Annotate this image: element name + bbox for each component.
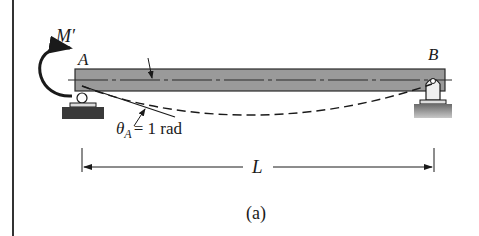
applied-moment-arrow — [40, 47, 72, 96]
support-b-label: B — [428, 45, 439, 64]
beam-diagram: M′ A B θA= 1 rad L (a) — [0, 0, 479, 236]
moment-label: M′ — [55, 26, 76, 46]
support-a-label: A — [77, 50, 89, 69]
rotation-label: θA= 1 rad — [116, 119, 182, 141]
span-label: L — [251, 156, 263, 177]
figure-caption: (a) — [246, 203, 266, 224]
